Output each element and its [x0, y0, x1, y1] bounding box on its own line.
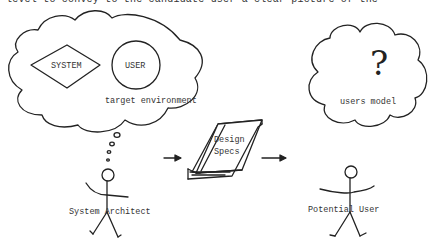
book-title-line2: Specs — [214, 147, 240, 157]
system-label: SYSTEM — [51, 61, 82, 71]
book-title-line1: Design — [214, 135, 245, 145]
thought-bubble — [114, 133, 120, 138]
thought-bubble — [107, 151, 111, 154]
user-label: USER — [125, 61, 145, 71]
potential-user-label: Potential User — [308, 205, 379, 215]
potential-user-figure — [320, 166, 374, 236]
users-model-label: users model — [340, 97, 396, 107]
right-thought-cloud — [309, 23, 427, 126]
system-architect-figure — [86, 169, 128, 237]
target-environment-label: target environment — [105, 96, 197, 106]
arrow-to-specs — [164, 155, 181, 161]
thought-bubble — [107, 159, 110, 161]
arrow-to-user — [262, 155, 286, 161]
left-thought-cloud — [9, 11, 203, 132]
question-mark-icon: ? — [370, 43, 388, 83]
thought-bubble — [110, 142, 115, 146]
system-architect-label: System Architect — [69, 207, 151, 217]
